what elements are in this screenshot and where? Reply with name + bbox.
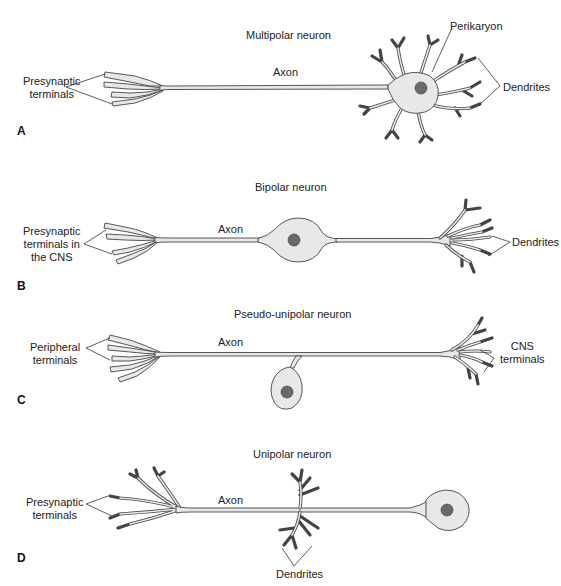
pseudo-unipolar-neuron-drawing <box>86 318 494 409</box>
panel-d-letter: D <box>17 551 26 565</box>
panel-c-title: Pseudo-unipolar neuron <box>234 308 351 321</box>
label-line: Presynaptic <box>23 75 80 88</box>
panel-c-left-label: Peripheral terminals <box>30 341 80 367</box>
panel-d-left-label: Presynaptic terminals <box>26 496 83 522</box>
panel-b-axon-label: Axon <box>218 223 243 236</box>
presynaptic-terminals-d <box>110 468 180 528</box>
label-line: terminals in <box>23 238 80 251</box>
nucleus-c <box>281 386 293 398</box>
panel-b-left-label: Presynaptic terminals in the CNS <box>23 225 80 264</box>
axon-b <box>155 238 268 243</box>
label-line: terminals <box>23 88 80 101</box>
label-line: Presynaptic <box>23 225 80 238</box>
nucleus-b <box>288 234 300 246</box>
dendrites-b <box>440 200 492 272</box>
nucleus-d <box>441 504 453 516</box>
panel-d-dendrites-label: Dendrites <box>276 568 323 581</box>
bipolar-neuron-drawing <box>84 200 510 272</box>
label-line: the CNS <box>23 251 80 264</box>
panel-a-left-label: Presynaptic terminals <box>23 75 80 101</box>
panel-a-axon-label: Axon <box>273 66 298 79</box>
cns-terminals-c <box>452 318 492 384</box>
nucleus-a <box>415 82 427 94</box>
presynaptic-terminals-b <box>104 223 158 264</box>
peripheral-terminals-c <box>108 335 160 382</box>
multipolar-neuron-drawing <box>66 28 500 142</box>
label-line: Peripheral <box>30 341 80 354</box>
axon-c <box>155 346 460 360</box>
panel-b-title: Bipolar neuron <box>255 181 327 194</box>
label-line: terminals <box>500 353 545 366</box>
label-line: CNS <box>500 340 545 353</box>
panel-a-letter: A <box>17 124 26 138</box>
label-line: terminals <box>26 509 83 522</box>
panel-b-letter: B <box>17 279 26 293</box>
axon-a <box>160 85 388 91</box>
panel-c-axon-label: Axon <box>218 336 243 349</box>
panel-c-right-label: CNS terminals <box>500 340 545 366</box>
panel-c-letter: C <box>17 393 26 407</box>
neuron-diagram <box>0 0 561 586</box>
panel-b-dendrites-label: Dendrites <box>512 236 559 249</box>
panel-d-title: Unipolar neuron <box>253 448 331 461</box>
presynaptic-terminals-a <box>104 72 163 106</box>
panel-a-title: Multipolar neuron <box>246 29 331 42</box>
panel-d-axon-label: Axon <box>218 494 243 507</box>
unipolar-neuron-drawing <box>86 468 469 566</box>
panel-a-dendrites-label: Dendrites <box>503 81 550 94</box>
label-line: terminals <box>30 354 80 367</box>
panel-a-perikaryon-label: Perikaryon <box>450 20 503 33</box>
label-line: Presynaptic <box>26 496 83 509</box>
